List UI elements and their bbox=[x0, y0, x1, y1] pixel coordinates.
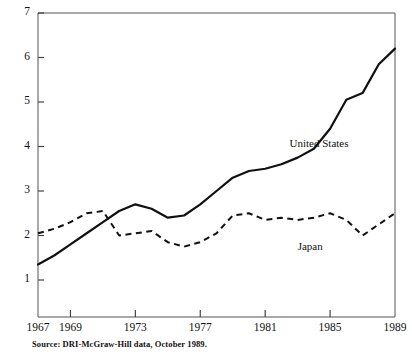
source-note: Source: DRI-McGraw-Hill data, October 19… bbox=[32, 339, 207, 349]
y-axis-ticks bbox=[38, 13, 44, 280]
y-tick-label-1: 1 bbox=[8, 272, 30, 284]
y-tick-label-3: 3 bbox=[8, 183, 30, 195]
x-tick-label-1973: 1973 bbox=[113, 321, 157, 333]
x-tick-label-1985: 1985 bbox=[308, 321, 352, 333]
y-tick-label-4: 4 bbox=[8, 139, 30, 151]
x-tick-label-1977: 1977 bbox=[178, 321, 222, 333]
y-tick-label-2: 2 bbox=[8, 228, 30, 240]
y-tick-label-5: 5 bbox=[8, 94, 30, 106]
x-axis-ticks bbox=[70, 310, 330, 317]
chart-figure: 7654321 1967196919731977198119851989 Uni… bbox=[0, 0, 412, 357]
x-tick-label-1969: 1969 bbox=[48, 321, 92, 333]
chart-plot-area bbox=[0, 0, 412, 357]
series-label-united-states: United States bbox=[290, 137, 349, 149]
axis-frame bbox=[38, 13, 395, 317]
y-tick-label-6: 6 bbox=[8, 50, 30, 62]
x-tick-label-1989: 1989 bbox=[373, 321, 412, 333]
x-tick-label-1981: 1981 bbox=[243, 321, 287, 333]
y-tick-label-7: 7 bbox=[8, 5, 30, 17]
series-label-japan: Japan bbox=[298, 240, 323, 252]
